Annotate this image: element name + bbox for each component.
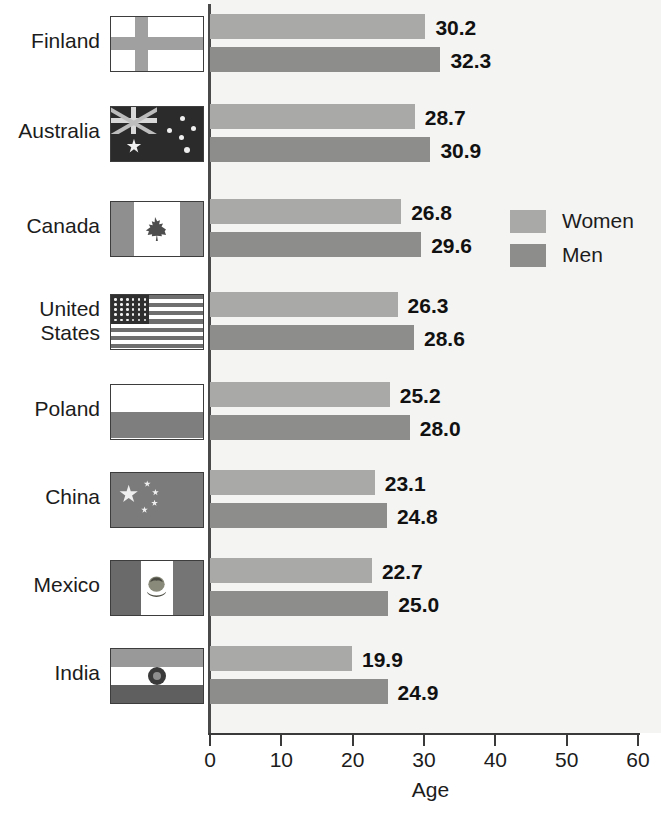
flag-finland-icon bbox=[110, 16, 204, 72]
bar-women-poland bbox=[210, 382, 390, 407]
bar-value-men-poland: 28.0 bbox=[420, 417, 461, 441]
country-label-line1: Finland bbox=[0, 29, 100, 53]
bar-value-women-finland: 30.2 bbox=[435, 16, 476, 40]
bar-women-united-states bbox=[210, 292, 398, 317]
country-label-line1: Australia bbox=[0, 119, 100, 143]
legend-label-women: Women bbox=[562, 209, 634, 233]
x-tick-label-60: 60 bbox=[626, 748, 649, 772]
bar-men-canada bbox=[210, 232, 421, 257]
bar-women-china bbox=[210, 470, 375, 495]
country-label-india: India bbox=[0, 661, 100, 685]
bar-women-australia bbox=[210, 104, 415, 129]
country-label-finland: Finland bbox=[0, 29, 100, 53]
legend-item-women: Women bbox=[510, 204, 634, 238]
bar-value-women-united-states: 26.3 bbox=[408, 294, 449, 318]
legend-item-men: Men bbox=[510, 238, 634, 272]
legend-swatch-men-icon bbox=[510, 244, 546, 267]
x-tick-label-20: 20 bbox=[341, 748, 364, 772]
bar-value-men-china: 24.8 bbox=[397, 505, 438, 529]
x-tick-label-0: 0 bbox=[204, 748, 216, 772]
x-tick-10 bbox=[280, 735, 282, 746]
x-tick-label-50: 50 bbox=[555, 748, 578, 772]
x-tick-30 bbox=[423, 735, 425, 746]
country-label-line2: States bbox=[0, 321, 100, 345]
x-axis-title: Age bbox=[0, 778, 661, 802]
x-tick-40 bbox=[494, 735, 496, 746]
bar-men-australia bbox=[210, 137, 430, 162]
bar-men-mexico bbox=[210, 591, 388, 616]
bar-value-men-india: 24.9 bbox=[398, 681, 439, 705]
flag-united-states-icon bbox=[110, 294, 204, 350]
legend-label-men: Men bbox=[562, 243, 603, 267]
bar-value-men-mexico: 25.0 bbox=[398, 593, 439, 617]
country-label-poland: Poland bbox=[0, 397, 100, 421]
bar-men-finland bbox=[210, 47, 440, 72]
bar-women-canada bbox=[210, 199, 401, 224]
bar-value-women-mexico: 22.7 bbox=[382, 560, 423, 584]
country-label-line1: India bbox=[0, 661, 100, 685]
bar-women-mexico bbox=[210, 558, 372, 583]
bar-value-women-india: 19.9 bbox=[362, 648, 403, 672]
flag-poland-icon bbox=[110, 384, 204, 440]
country-label-china: China bbox=[0, 485, 100, 509]
country-label-australia: Australia bbox=[0, 119, 100, 143]
bar-value-women-australia: 28.7 bbox=[425, 106, 466, 130]
x-tick-label-30: 30 bbox=[412, 748, 435, 772]
bar-value-men-united-states: 28.6 bbox=[424, 327, 465, 351]
country-label-line1: Mexico bbox=[0, 573, 100, 597]
flag-australia-icon bbox=[110, 106, 204, 162]
country-label-united-states: UnitedStates bbox=[0, 297, 100, 344]
x-tick-label-40: 40 bbox=[484, 748, 507, 772]
x-tick-0 bbox=[209, 735, 211, 746]
x-tick-label-10: 10 bbox=[270, 748, 293, 772]
bar-women-india bbox=[210, 646, 352, 671]
x-tick-20 bbox=[352, 735, 354, 746]
legend: Women Men bbox=[510, 204, 634, 272]
country-label-line1: China bbox=[0, 485, 100, 509]
bar-men-india bbox=[210, 679, 388, 704]
flag-india-icon bbox=[110, 648, 204, 704]
x-tick-50 bbox=[566, 735, 568, 746]
bar-value-men-finland: 32.3 bbox=[450, 49, 491, 73]
flag-mexico-icon bbox=[110, 560, 204, 616]
country-label-line1: Canada bbox=[0, 214, 100, 238]
bar-men-united-states bbox=[210, 325, 414, 350]
legend-swatch-women-icon bbox=[510, 210, 546, 233]
bar-value-women-poland: 25.2 bbox=[400, 384, 441, 408]
bar-women-finland bbox=[210, 14, 425, 39]
country-label-mexico: Mexico bbox=[0, 573, 100, 597]
bar-value-women-canada: 26.8 bbox=[411, 201, 452, 225]
flag-china-icon bbox=[110, 472, 204, 528]
bar-value-women-china: 23.1 bbox=[385, 472, 426, 496]
flag-canada-icon bbox=[110, 201, 204, 257]
country-label-line1: United bbox=[0, 297, 100, 321]
x-tick-60 bbox=[637, 735, 639, 746]
bar-value-men-australia: 30.9 bbox=[440, 139, 481, 163]
country-label-canada: Canada bbox=[0, 214, 100, 238]
age-at-first-marriage-bar-chart: 0102030405060 Age Finland30.232.3Austral… bbox=[0, 0, 661, 813]
bar-value-men-canada: 29.6 bbox=[431, 234, 472, 258]
country-label-line1: Poland bbox=[0, 397, 100, 421]
bar-men-china bbox=[210, 503, 387, 528]
bar-men-poland bbox=[210, 415, 410, 440]
